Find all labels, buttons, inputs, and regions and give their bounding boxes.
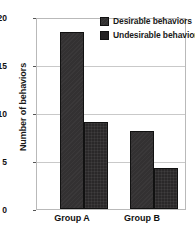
y-tick-label-20: 20 [0, 14, 7, 23]
plot-area: Desirable behaviors Undesirable behavior… [36, 18, 186, 210]
y-axis-title: Number of behaviors [18, 32, 28, 182]
bar-group-group-a [60, 32, 108, 209]
legend-label-desirable: Desirable behaviors [113, 16, 192, 26]
y-tick-mark-0 [33, 210, 36, 211]
chart-legend: Desirable behaviors Undesirable behavior… [100, 15, 195, 41]
bar-group-a-desirable[interactable] [60, 32, 84, 209]
bar-chart-figure: Number of behaviors 20 15 10 5 0 Desirab… [0, 0, 195, 241]
legend-item-desirable[interactable]: Desirable behaviors [100, 15, 195, 27]
legend-item-undesirable[interactable]: Undesirable behaviors [100, 29, 195, 41]
y-tick-label-10: 10 [0, 110, 7, 119]
y-tick-label-0: 0 [0, 206, 7, 215]
bar-group-a-undesirable[interactable] [84, 122, 108, 209]
desirable-swatch-icon [100, 17, 109, 26]
bar-group-b-desirable[interactable] [130, 131, 154, 209]
bar-group-b-undesirable[interactable] [154, 168, 178, 209]
y-tick-label-5: 5 [0, 158, 7, 167]
y-tick-label-15: 15 [0, 62, 7, 71]
undesirable-swatch-icon [100, 31, 109, 40]
legend-label-undesirable: Undesirable behaviors [113, 30, 195, 40]
x-tick-label-group-b: Group B [97, 213, 187, 223]
bar-group-group-b [130, 131, 178, 209]
